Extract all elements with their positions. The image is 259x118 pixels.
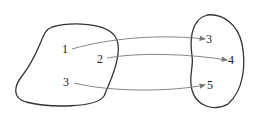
codomain-set-outline: [191, 15, 244, 108]
arrow-3-to-5: [74, 83, 205, 90]
arrow-2-to-4: [107, 54, 227, 60]
codomain-element-4: 4: [228, 53, 234, 67]
domain-set-outline: [16, 24, 119, 106]
domain-element-3: 3: [63, 75, 69, 89]
domain-element-1: 1: [62, 42, 68, 56]
domain-element-2: 2: [97, 52, 103, 66]
mapping-diagram: 1 2 3 3 4 5: [0, 0, 259, 118]
codomain-element-3: 3: [206, 32, 212, 46]
codomain-element-5: 5: [207, 78, 213, 92]
arrow-1-to-3: [72, 37, 205, 49]
